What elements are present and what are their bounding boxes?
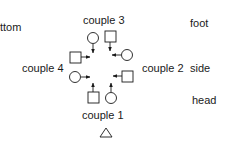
couple-3-man-icon — [105, 31, 116, 42]
square-dance-diagram — [0, 0, 225, 145]
couple-2-woman-icon — [122, 50, 133, 61]
couple-3-woman-icon — [88, 33, 99, 44]
caller-triangle-icon — [100, 128, 112, 137]
couple-1-man-icon — [88, 92, 99, 103]
couple-4-woman-icon — [70, 72, 81, 83]
couple-2-man-icon — [122, 71, 133, 82]
couple-1-woman-icon — [106, 93, 117, 104]
couple-4-man-icon — [70, 52, 81, 63]
